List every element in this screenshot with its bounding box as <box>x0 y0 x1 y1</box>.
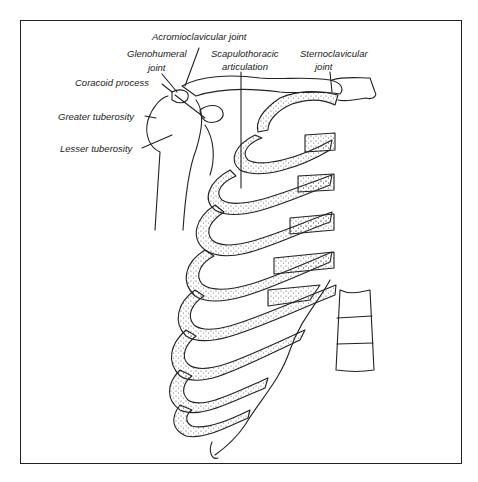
label-acromioclavicular-joint: Acromioclavicular joint <box>152 32 247 42</box>
costal-cartilage <box>305 133 335 152</box>
leader-sternoclavicular <box>330 72 332 92</box>
vertebral-column <box>336 290 374 372</box>
label-sternoclavicular-line2: joint <box>315 62 332 72</box>
manubrium <box>332 78 376 101</box>
rib-1 <box>257 92 338 132</box>
leader-coracoid <box>162 84 172 92</box>
label-glenohumeral-joint-line2: joint <box>148 63 165 73</box>
humerus-head <box>147 96 168 230</box>
coracoid <box>172 90 188 103</box>
leader-lesser-tuberosity <box>142 135 172 148</box>
label-greater-tuberosity: Greater tuberosity <box>58 112 134 122</box>
label-glenohumeral-joint-line1: Glenohumeral <box>127 49 187 59</box>
label-sternoclavicular-line1: Sternoclavicular <box>300 49 368 59</box>
label-scapulothoracic-line2: articulation <box>222 62 268 72</box>
leader-greater-tuberosity <box>145 116 156 118</box>
rib-7 <box>171 330 305 380</box>
label-lesser-tuberosity: Lesser tuberosity <box>60 144 132 154</box>
label-coracoid-process: Coracoid process <box>75 78 149 88</box>
rib-cage-illustration <box>0 0 478 482</box>
label-scapulothoracic-line1: Scapulothoracic <box>211 49 279 59</box>
